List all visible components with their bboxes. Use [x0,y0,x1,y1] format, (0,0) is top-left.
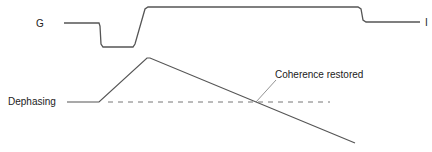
coherence-restored-label: Coherence restored [275,69,363,80]
dephasing-label: Dephasing [8,96,56,107]
gradient-waveform [64,7,420,47]
gradient-end-mark: I [425,17,428,28]
gradient-echo-diagram: G I Dephasing Coherence restored [0,0,432,152]
coherence-leader-line [256,80,276,102]
gradient-label: G [36,18,44,29]
